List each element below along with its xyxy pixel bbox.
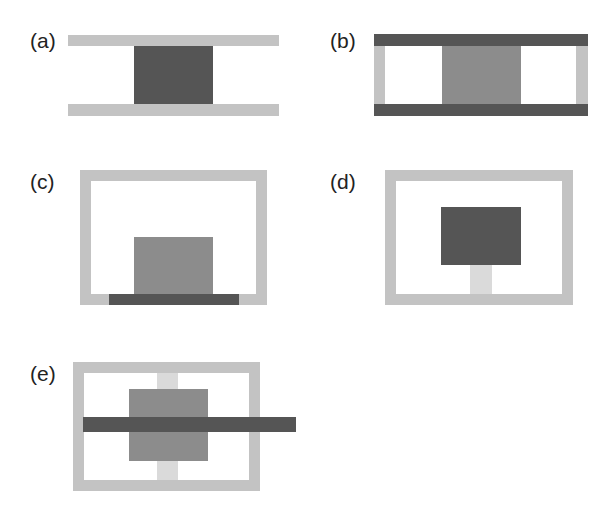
panel-label-a: (a) (30, 30, 56, 51)
panel-label-d: (d) (330, 171, 356, 192)
panel-label-b: (b) (330, 30, 356, 51)
light-stem (470, 265, 492, 294)
right-light-post (576, 46, 588, 104)
bottom-light-stem (157, 461, 178, 480)
bottom-dark-bar (109, 294, 239, 305)
left-light-post (374, 46, 385, 104)
horizontal-dark-bar (83, 417, 296, 432)
panel-label-e: (e) (30, 363, 56, 384)
top-light-stem (157, 373, 178, 389)
top-dark-bar (374, 34, 588, 46)
top-light-bar (68, 35, 279, 46)
panel-label-c: (c) (30, 171, 55, 192)
dark-block (134, 46, 213, 104)
dark-block (441, 207, 521, 265)
mid-gray-block (442, 46, 521, 104)
bottom-light-bar (68, 104, 279, 116)
bottom-dark-bar (374, 104, 588, 116)
mid-gray-block (134, 237, 213, 295)
